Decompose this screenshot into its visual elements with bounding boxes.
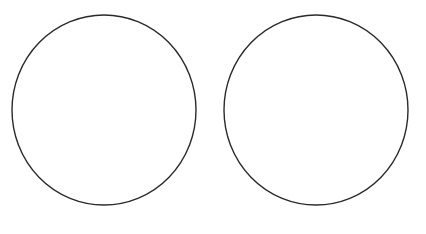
right-circle xyxy=(224,15,408,205)
diagram-canvas xyxy=(0,0,426,234)
diagram-svg xyxy=(0,0,426,234)
left-circle xyxy=(12,15,196,205)
